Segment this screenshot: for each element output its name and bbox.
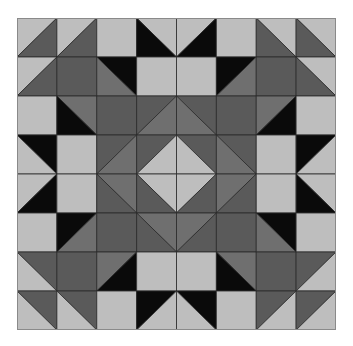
quilt-cell [216, 135, 256, 174]
quilt-cell [296, 252, 336, 291]
quilt-cell [296, 291, 336, 330]
quilt-cell [97, 135, 137, 174]
solid-square [256, 135, 296, 174]
solid-square [216, 213, 256, 252]
solid-square [17, 213, 57, 252]
quilt-cell [256, 174, 296, 213]
quilt-cell [296, 174, 336, 213]
quilt-cell [296, 18, 336, 57]
quilt-cell [137, 174, 177, 213]
quilt-cell [216, 96, 256, 135]
solid-square [57, 57, 97, 96]
solid-square [256, 252, 296, 291]
quilt-cell [17, 18, 57, 57]
quilt-cell [17, 57, 57, 96]
quilt-block-pattern [17, 18, 336, 330]
quilt-cell [137, 96, 177, 135]
quilt-cell [97, 291, 137, 330]
quilt-cell [97, 252, 137, 291]
quilt-cell [296, 57, 336, 96]
quilt-cell [17, 135, 57, 174]
solid-square [97, 291, 137, 330]
quilt-cell [97, 18, 137, 57]
quilt-cell [256, 291, 296, 330]
solid-square [177, 252, 217, 291]
quilt-cell [57, 213, 97, 252]
quilt-cell [137, 291, 177, 330]
solid-square [256, 57, 296, 96]
quilt-cell [256, 96, 296, 135]
solid-square [216, 18, 256, 57]
quilt-cell [216, 291, 256, 330]
solid-square [137, 57, 177, 96]
quilt-cell [177, 252, 217, 291]
quilt-cell [57, 18, 97, 57]
quilt-cell [216, 213, 256, 252]
quilt-cell [296, 96, 336, 135]
quilt-cell [57, 135, 97, 174]
solid-square [296, 213, 336, 252]
quilt-cell [57, 291, 97, 330]
solid-square [97, 213, 137, 252]
solid-square [17, 96, 57, 135]
quilt-cell [17, 213, 57, 252]
quilt-cell [177, 174, 217, 213]
quilt-cell [57, 96, 97, 135]
quilt-cell [137, 252, 177, 291]
quilt-cell [216, 18, 256, 57]
quilt-cell [137, 135, 177, 174]
quilt-cell [216, 57, 256, 96]
solid-square [57, 252, 97, 291]
solid-square [216, 291, 256, 330]
quilt-cell [177, 57, 217, 96]
quilt-cell [137, 18, 177, 57]
quilt-cell [256, 213, 296, 252]
quilt-cell [256, 135, 296, 174]
quilt-cell [97, 213, 137, 252]
quilt-cell [17, 174, 57, 213]
quilt-grid [17, 18, 336, 330]
quilt-cell [57, 57, 97, 96]
quilt-cell [216, 252, 256, 291]
solid-square [97, 96, 137, 135]
quilt-cell [177, 291, 217, 330]
solid-square [177, 57, 217, 96]
solid-square [57, 135, 97, 174]
quilt-cell [256, 57, 296, 96]
quilt-cell [216, 174, 256, 213]
quilt-cell [177, 135, 217, 174]
quilt-cell [256, 252, 296, 291]
solid-square [97, 18, 137, 57]
quilt-cell [57, 252, 97, 291]
quilt-cell [177, 18, 217, 57]
quilt-cell [97, 57, 137, 96]
solid-square [216, 96, 256, 135]
quilt-cell [256, 18, 296, 57]
quilt-cell [137, 57, 177, 96]
quilt-cell [296, 135, 336, 174]
solid-square [296, 96, 336, 135]
quilt-cell [177, 96, 217, 135]
quilt-cell [57, 174, 97, 213]
quilt-cell [137, 213, 177, 252]
solid-square [256, 174, 296, 213]
quilt-cell [17, 96, 57, 135]
solid-square [137, 252, 177, 291]
solid-square [57, 174, 97, 213]
quilt-cell [17, 291, 57, 330]
quilt-cell [177, 213, 217, 252]
quilt-cell [296, 213, 336, 252]
quilt-cell [97, 96, 137, 135]
quilt-cell [97, 174, 137, 213]
quilt-cell [17, 252, 57, 291]
